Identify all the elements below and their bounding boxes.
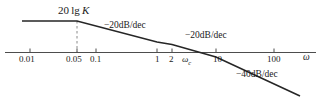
tick-label-1: 1 xyxy=(155,55,160,64)
slope-label-third: −40dB/dec xyxy=(236,70,278,80)
gain-level-label: 20 lg K xyxy=(58,5,89,16)
plot-canvas xyxy=(0,0,322,101)
omega-c-subscript: c xyxy=(188,59,191,66)
slope-label-first: −20dB/dec xyxy=(104,21,146,31)
tick-label-2: 2 xyxy=(169,55,174,64)
crossover-frequency-label: ωc xyxy=(182,55,191,66)
x-axis-label-omega: ω xyxy=(303,53,310,63)
tick-label-10: 10 xyxy=(213,55,222,64)
tick-label-0.05: 0.05 xyxy=(66,55,82,64)
gain-label-symbol: K xyxy=(82,4,89,16)
bode-magnitude-plot: 20 lg K −20dB/dec −20dB/dec −40dB/dec ωc… xyxy=(0,0,322,101)
tick-label-0.1: 0.1 xyxy=(90,55,101,64)
tick-label-100: 100 xyxy=(267,55,281,64)
tick-label-0.01: 0.01 xyxy=(19,55,35,64)
x-axis-ticks xyxy=(30,49,274,53)
slope-label-second: −20dB/dec xyxy=(185,31,227,41)
gain-label-prefix: 20 lg xyxy=(58,4,82,16)
magnitude-asymptote-curve xyxy=(22,21,300,96)
